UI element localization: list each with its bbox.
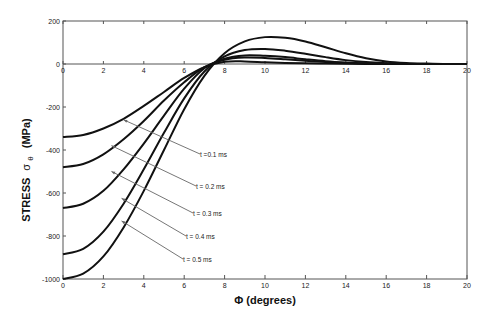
x-tick-label: 6	[182, 282, 186, 289]
x-tick-label-zero: 12	[302, 67, 310, 74]
x-tick-label: 8	[223, 282, 227, 289]
x-tick-label-zero: 6	[182, 67, 186, 74]
x-tick-label: 4	[142, 282, 146, 289]
y-tick-label: 200	[48, 18, 60, 25]
x-tick-label: 14	[342, 282, 350, 289]
svg-text:STRESS σ θ (: STRESS σ θ (MPa)	[20, 118, 35, 222]
x-tick-label-zero: 18	[423, 67, 431, 74]
annotation-arrow	[124, 120, 200, 154]
x-tick-label-zero: 8	[223, 67, 227, 74]
x-tick-label: 12	[302, 282, 310, 289]
y-axis-subscript: θ	[26, 156, 35, 161]
x-tick-label: 0	[61, 282, 65, 289]
x-tick-label: 16	[382, 282, 390, 289]
x-tick-label-zero: 20	[463, 67, 471, 74]
y-axis-title-main: STRESS	[20, 178, 32, 222]
x-tick-label-zero: 14	[342, 67, 350, 74]
curve-0.3ms	[63, 55, 467, 208]
y-tick-label: -400	[46, 147, 60, 154]
x-tick-label-zero: 4	[142, 67, 146, 74]
plot-frame	[63, 21, 467, 279]
x-axis-title: Φ (degrees)	[234, 294, 296, 306]
y-tick-label: -1000	[42, 276, 60, 283]
y-axis-symbol: σ	[20, 164, 32, 171]
annotation-label: t = 0.5 ms	[183, 256, 212, 263]
x-tick-label: 20	[463, 282, 471, 289]
annotation-label: t =0.1 ms	[200, 151, 228, 158]
x-tick-label-zero: 2	[101, 67, 105, 74]
x-tick-label: 10	[261, 282, 269, 289]
y-tick-label: -600	[46, 190, 60, 197]
y-axis-unit: (MPa)	[20, 118, 32, 148]
annotations: t =0.1 mst = 0.2 mst = 0.3 mst = 0.4 mst…	[111, 120, 227, 263]
y-tick-label: -800	[46, 233, 60, 240]
annotation-arrow	[122, 198, 186, 236]
y-tick-label: -200	[46, 104, 60, 111]
x-tick-label: 18	[423, 282, 431, 289]
x-tick-label-zero: 16	[382, 67, 390, 74]
y-tick-label: 0	[56, 61, 60, 68]
x-tick-label-zero: 0	[61, 67, 65, 74]
annotation-label: t = 0.4 ms	[186, 233, 215, 240]
annotation-label: t = 0.2 ms	[196, 183, 225, 190]
y-axis-title: STRESS σ θ (MPa)	[20, 118, 35, 222]
annotation-arrow	[111, 171, 193, 213]
x-tick-label-zero: 10	[261, 67, 269, 74]
stress-chart: 2000-200-400-600-800-1000002244668810101…	[0, 0, 490, 320]
annotation-label: t = 0.3 ms	[193, 210, 222, 217]
annotation-arrow	[122, 221, 183, 259]
x-tick-label: 2	[101, 282, 105, 289]
